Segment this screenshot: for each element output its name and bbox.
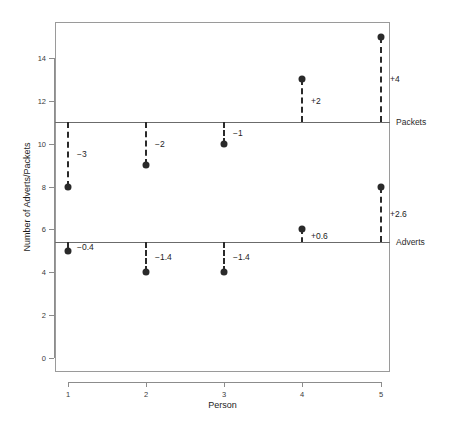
x-tick-mark bbox=[302, 382, 303, 387]
residual-line bbox=[380, 37, 382, 123]
chart-figure: 02468101214 12345 Number of Adverts/Pack… bbox=[0, 0, 461, 427]
y-tick-mark bbox=[49, 187, 54, 188]
y-tick-mark bbox=[49, 144, 54, 145]
residual-label: +4 bbox=[390, 74, 400, 84]
x-tick-label: 2 bbox=[144, 390, 148, 399]
x-tick-label: 1 bbox=[66, 390, 70, 399]
y-tick-label: 8 bbox=[42, 182, 46, 191]
y-tick-label: 2 bbox=[42, 311, 46, 320]
residual-label: −1.4 bbox=[155, 252, 172, 262]
y-tick-mark bbox=[49, 101, 54, 102]
residual-line bbox=[145, 122, 147, 165]
data-point bbox=[299, 76, 306, 83]
plot-area-frame bbox=[55, 22, 390, 372]
x-tick-mark bbox=[224, 382, 225, 387]
residual-label: −3 bbox=[77, 149, 87, 159]
x-tick-mark bbox=[381, 382, 382, 387]
data-point bbox=[143, 269, 150, 276]
residual-label: −1 bbox=[233, 128, 243, 138]
y-tick-mark bbox=[49, 58, 54, 59]
x-tick-mark bbox=[146, 382, 147, 387]
y-tick-label: 12 bbox=[38, 96, 46, 105]
y-tick-label: 0 bbox=[42, 354, 46, 363]
residual-line bbox=[145, 242, 147, 272]
residual-line bbox=[380, 187, 382, 243]
y-tick-mark bbox=[49, 229, 54, 230]
y-tick-mark bbox=[49, 315, 54, 316]
residual-label: +2 bbox=[311, 96, 321, 106]
y-tick-label: 10 bbox=[38, 139, 46, 148]
residual-label: +0.6 bbox=[311, 231, 328, 241]
data-point bbox=[65, 247, 72, 254]
residual-line bbox=[67, 122, 69, 186]
residual-label: +2.6 bbox=[390, 209, 407, 219]
residual-line bbox=[301, 79, 303, 122]
x-tick-label: 3 bbox=[222, 390, 226, 399]
reference-line-label-packets: Packets bbox=[396, 117, 426, 127]
reference-line-label-adverts: Adverts bbox=[396, 237, 425, 247]
x-axis-title: Person bbox=[55, 400, 390, 410]
data-point bbox=[299, 226, 306, 233]
data-point bbox=[221, 140, 228, 147]
data-point bbox=[65, 183, 72, 190]
x-tick-label: 5 bbox=[379, 390, 383, 399]
data-point bbox=[221, 269, 228, 276]
y-axis-title: Number of Adverts/Packets bbox=[22, 22, 32, 372]
y-axis-line bbox=[54, 58, 55, 358]
residual-label: −2 bbox=[155, 139, 165, 149]
data-point bbox=[378, 33, 385, 40]
residual-label: −0.4 bbox=[77, 242, 94, 252]
y-tick-label: 14 bbox=[38, 54, 46, 63]
x-tick-mark bbox=[68, 382, 69, 387]
y-tick-label: 6 bbox=[42, 225, 46, 234]
residual-line bbox=[223, 242, 225, 272]
y-tick-label: 4 bbox=[42, 268, 46, 277]
y-tick-mark bbox=[49, 358, 54, 359]
data-point bbox=[143, 162, 150, 169]
x-tick-label: 4 bbox=[300, 390, 304, 399]
data-point bbox=[378, 183, 385, 190]
residual-label: −1.4 bbox=[233, 252, 250, 262]
y-tick-mark bbox=[49, 272, 54, 273]
